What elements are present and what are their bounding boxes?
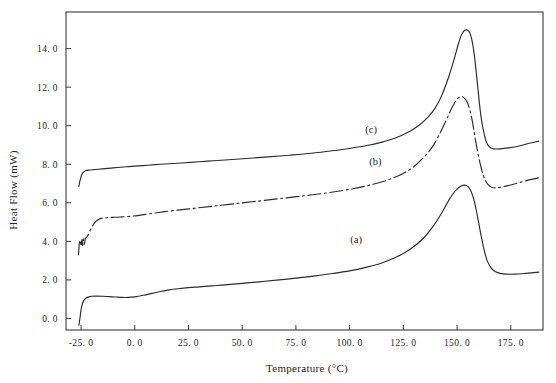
x-axis-title: Temperature (°C)	[266, 362, 348, 375]
x-tick-label: 125. 0	[390, 338, 416, 348]
curve-b	[78, 97, 538, 255]
curve-label-a: (a)	[350, 234, 362, 246]
y-tick-label: 2. 0	[42, 275, 58, 285]
curve-c	[79, 30, 539, 187]
y-axis-ticks	[66, 49, 71, 319]
curve-label-b: (b)	[369, 156, 382, 168]
x-tick-label: 75. 0	[285, 338, 306, 348]
x-tick-label: 100. 0	[337, 338, 363, 348]
x-tick-label: -25. 0	[69, 338, 94, 348]
y-axis-tick-labels: 0. 02. 04. 06. 08. 010. 012. 014. 0	[37, 44, 58, 324]
dsc-thermogram-figure: -25. 00. 025. 050. 075. 0100. 0125. 0150…	[0, 0, 556, 383]
x-tick-label: 175. 0	[498, 338, 524, 348]
y-tick-label: 12. 0	[37, 83, 58, 93]
y-axis-title: Heat Flow (mW)	[7, 150, 20, 229]
x-tick-label: 25. 0	[178, 338, 199, 348]
y-tick-label: 8. 0	[42, 160, 58, 170]
data-curves	[78, 30, 538, 325]
y-tick-label: 14. 0	[37, 44, 58, 54]
chart-canvas: -25. 00. 025. 050. 075. 0100. 0125. 0150…	[0, 0, 556, 383]
x-tick-label: 150. 0	[444, 338, 470, 348]
y-tick-label: 0. 0	[42, 314, 58, 324]
x-tick-label: 50. 0	[232, 338, 253, 348]
x-axis-tick-labels: -25. 00. 025. 050. 075. 0100. 0125. 0150…	[69, 338, 524, 348]
y-tick-label: 10. 0	[37, 121, 58, 131]
y-tick-label: 6. 0	[42, 198, 58, 208]
y-tick-label: 4. 0	[42, 237, 58, 247]
curve-a	[79, 185, 539, 325]
x-axis-ticks	[81, 325, 511, 330]
curve-label-c: (c)	[365, 124, 377, 136]
x-tick-label: 0. 0	[127, 338, 143, 348]
plot-frame	[66, 12, 543, 330]
plot-area-border	[66, 12, 543, 330]
